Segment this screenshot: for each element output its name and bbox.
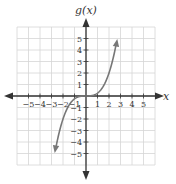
y-tick-label: 3 xyxy=(77,58,82,67)
y-tick-label: −5 xyxy=(70,150,82,159)
y-tick-label: 1 xyxy=(77,81,82,90)
x-tick-label: 5 xyxy=(141,100,146,109)
y-tick-label: −4 xyxy=(70,138,82,147)
curve-arrow-down-icon xyxy=(53,145,59,153)
y-tick-label: 5 xyxy=(77,35,82,44)
curve-arrow-up-icon xyxy=(113,39,119,47)
y-axis-arrow-down-icon xyxy=(83,171,90,180)
y-axis-arrow-up-icon xyxy=(83,18,90,27)
y-axis-label: g(x) xyxy=(75,4,97,17)
x-tick-label: −4 xyxy=(34,100,46,109)
y-tick-label: −3 xyxy=(70,127,82,136)
y-tick-label: 2 xyxy=(77,69,82,78)
x-axis-label: x xyxy=(163,90,170,103)
x-tick-label: −3 xyxy=(46,100,58,109)
axes xyxy=(4,18,164,180)
function-graph: −5−4−3−2−112345−5−4−3−2−112345 g(x) x xyxy=(0,0,176,184)
x-tick-label: 3 xyxy=(118,100,123,109)
x-tick-label: 1 xyxy=(95,100,100,109)
x-tick-label: 4 xyxy=(129,100,134,109)
x-axis-arrow-left-icon xyxy=(4,93,13,100)
y-tick-label: −1 xyxy=(70,104,82,113)
x-tick-label: −5 xyxy=(23,100,35,109)
x-tick-label: 2 xyxy=(106,100,111,109)
y-tick-label: −2 xyxy=(70,115,82,124)
y-tick-label: 4 xyxy=(77,46,82,55)
